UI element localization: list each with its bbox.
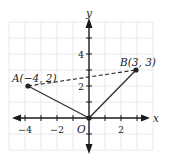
x-axis-label: x	[153, 112, 159, 124]
origin-label: O	[77, 123, 86, 135]
x-tick-label-2: 2	[118, 124, 124, 135]
point-a-label: A(−4, 2)	[11, 72, 57, 84]
y-axis-down-arrow-icon	[86, 144, 93, 154]
y-tick-label-2: 2	[78, 81, 84, 92]
point-b-label: B(3, 3)	[119, 56, 156, 68]
y-axis	[86, 18, 93, 154]
x-axis-right-arrow-icon	[141, 115, 150, 122]
point-a	[25, 83, 30, 88]
x-tick-label-neg4: −4	[18, 124, 32, 135]
coordinate-plane: y x O −4 −2 2 2 4 A(−4, 2) B(3, 3)	[0, 0, 169, 158]
x-axis	[12, 115, 150, 122]
x-axis-left-arrow-icon	[12, 115, 21, 122]
point-o	[86, 115, 91, 120]
x-tick-label-neg2: −2	[50, 124, 64, 135]
segment-o-b	[89, 70, 136, 118]
point-b	[133, 67, 138, 72]
y-axis-up-arrow-icon	[86, 18, 93, 28]
y-tick-label-4: 4	[78, 49, 84, 60]
y-axis-label: y	[85, 7, 93, 19]
